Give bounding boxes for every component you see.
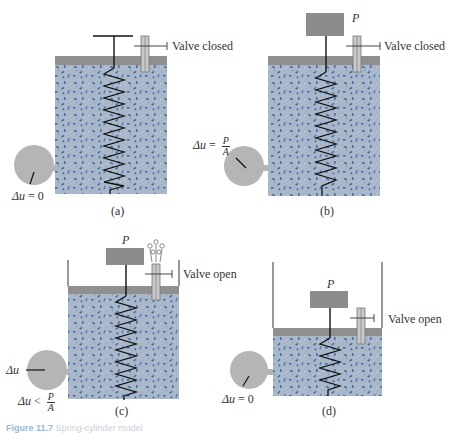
fraction-p-over-a: P A (222, 136, 230, 157)
panel-label-b: (b) (320, 205, 334, 217)
panel-a (14, 36, 167, 194)
weight-block (306, 13, 344, 36)
gauge-label-c-top: Δu (6, 364, 19, 376)
water-spray-icon (148, 240, 164, 262)
piston (68, 286, 179, 294)
gauge-label-b: Δu = P A (193, 136, 230, 157)
panel-label-d: (d) (322, 405, 336, 417)
panel-c (26, 240, 179, 400)
cylinder-fluid (268, 56, 380, 196)
weight-label-d: P (327, 278, 334, 290)
piston (268, 56, 380, 65)
weight-label-b: P (352, 12, 359, 24)
weight-label-c: P (122, 234, 129, 246)
panel-label-a: (a) (111, 205, 124, 217)
panel-b (224, 13, 380, 196)
valve-label-a: Valve closed (172, 40, 233, 52)
piston (55, 56, 167, 65)
valve-label-d: Valve open (388, 313, 442, 325)
pressure-gauge (230, 351, 268, 389)
cylinder-fluid (273, 328, 382, 396)
piston (273, 328, 382, 336)
weight-block (310, 291, 348, 308)
figure-caption: Figure 11.7 Spring-cylinder model (6, 423, 143, 433)
gauge-label-a: Δu = 0 (12, 190, 44, 202)
pressure-gauge (14, 145, 54, 185)
gauge-label-c: Δu < P A (18, 392, 55, 413)
valve-label-c: Valve open (183, 268, 237, 280)
fraction-p-over-a: P A (47, 392, 55, 413)
valve-label-b: Valve closed (384, 40, 445, 52)
panel-label-c: (c) (115, 405, 128, 417)
gauge-label-d: Δu = 0 (222, 393, 254, 405)
cylinder-fluid (68, 286, 179, 399)
weight-block (106, 248, 144, 265)
panel-d (230, 262, 382, 396)
